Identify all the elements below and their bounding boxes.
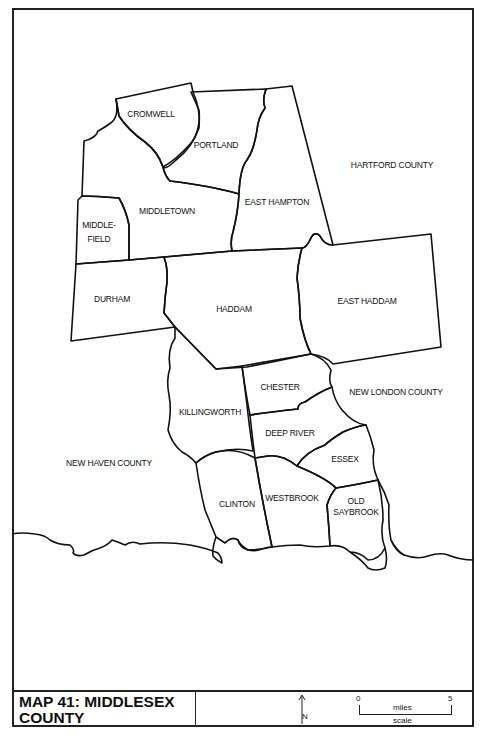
label-east-haddam: EAST HADDAM (337, 296, 396, 306)
label-haddam: HADDAM (216, 304, 252, 314)
legend-right: N 0 5 miles scale (196, 692, 472, 725)
scale-caption: scale (393, 716, 412, 725)
county-map (0, 0, 484, 747)
label-old-saybrook-2: SAYBROOK (333, 507, 378, 517)
label-new-london-county: NEW LONDON COUNTY (349, 387, 442, 397)
label-middlefield-1: MIDDLE- (82, 220, 116, 230)
town-boundary-east-hampton (231, 86, 333, 251)
label-westbrook: WESTBROOK (265, 493, 318, 503)
scale-bar: 0 5 miles scale (353, 694, 453, 726)
map-title-line-2: COUNTY (19, 710, 195, 726)
label-killingworth: KILLINGWORTH (179, 407, 241, 417)
scale-min: 0 (356, 694, 360, 703)
label-new-haven-county: NEW HAVEN COUNTY (66, 458, 152, 468)
new-london-boundary (378, 480, 404, 555)
town-boundary-killingworth (168, 327, 253, 463)
label-portland: PORTLAND (194, 140, 239, 150)
map-title: MAP 41: MIDDLESEX COUNTY (14, 692, 196, 725)
town-boundary-middlefield (76, 196, 129, 264)
north-label: N (302, 712, 308, 721)
label-durham: DURHAM (94, 294, 130, 304)
map-title-line-1: MAP 41: MIDDLESEX (19, 694, 195, 710)
label-clinton: CLINTON (219, 499, 255, 509)
scale-unit: miles (393, 703, 412, 712)
label-chester: CHESTER (260, 382, 299, 392)
label-essex: ESSEX (331, 454, 358, 464)
label-old-saybrook-1: OLD (348, 496, 365, 506)
label-east-hampton: EAST HAMPTON (245, 197, 309, 207)
north-indicator: N (298, 694, 318, 726)
label-deep-river: DEEP RIVER (265, 428, 314, 438)
coastline (12, 533, 474, 570)
scale-max: 5 (448, 694, 452, 703)
map-legend: MAP 41: MIDDLESEX COUNTY N 0 5 miles sca… (12, 690, 474, 727)
label-middlefield-2: FIELD (87, 234, 110, 244)
town-boundary-old-saybrook (327, 480, 385, 560)
label-hartford-county: HARTFORD COUNTY (351, 160, 433, 170)
label-middletown: MIDDLETOWN (139, 206, 195, 216)
label-cromwell: CROMWELL (127, 109, 175, 119)
